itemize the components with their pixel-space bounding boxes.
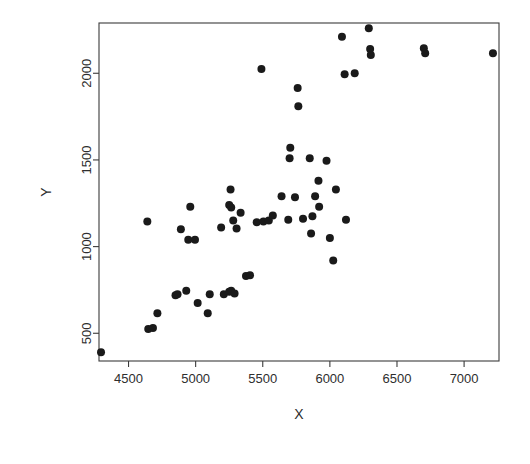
data-point: [149, 324, 157, 332]
data-point: [306, 154, 314, 162]
y-tick-label: 2000: [80, 59, 95, 88]
data-point: [311, 192, 319, 200]
data-point: [227, 204, 235, 212]
data-point: [365, 24, 373, 32]
data-point: [143, 217, 151, 225]
data-point: [314, 177, 322, 185]
data-point: [269, 211, 277, 219]
plot-canvas: 450050005500600065007000 500100015002000…: [0, 0, 530, 464]
data-point: [177, 225, 185, 233]
data-point: [332, 185, 340, 193]
data-point: [284, 216, 292, 224]
y-tick-label: 1000: [80, 232, 95, 261]
x-tick-label: 5500: [248, 371, 277, 386]
data-point: [186, 203, 194, 211]
data-point: [329, 256, 337, 264]
data-point: [227, 185, 235, 193]
data-point: [237, 209, 245, 217]
data-points: [97, 24, 497, 356]
data-point: [315, 203, 323, 211]
data-point: [278, 192, 286, 200]
data-point: [323, 157, 331, 165]
data-point: [253, 218, 261, 226]
y-axis-title: Y: [38, 187, 54, 197]
x-tick-label: 5000: [181, 371, 210, 386]
y-tick-label: 1500: [80, 145, 95, 174]
data-point: [338, 33, 346, 41]
data-point: [294, 102, 302, 110]
data-point: [308, 212, 316, 220]
data-point: [286, 144, 294, 152]
data-point: [246, 271, 254, 279]
data-point: [174, 290, 182, 298]
data-point: [194, 299, 202, 307]
data-point: [97, 348, 105, 356]
y-tick-label: 500: [80, 322, 95, 344]
data-point: [233, 224, 241, 232]
data-point: [191, 236, 199, 244]
data-point: [204, 309, 212, 317]
data-point: [489, 49, 497, 57]
data-point: [286, 154, 294, 162]
data-point: [326, 234, 334, 242]
data-point: [299, 215, 307, 223]
x-tick-label: 4500: [114, 371, 143, 386]
data-point: [421, 49, 429, 57]
y-axis-ticks: 500100015002000: [80, 59, 100, 344]
data-point: [231, 289, 239, 297]
x-axis-title: X: [294, 406, 304, 422]
data-point: [351, 69, 359, 77]
data-point: [206, 290, 214, 298]
data-point: [367, 51, 375, 59]
data-point: [294, 84, 302, 92]
data-point: [307, 230, 315, 238]
data-point: [342, 216, 350, 224]
data-point: [257, 65, 265, 73]
x-tick-label: 7000: [450, 371, 479, 386]
x-tick-label: 6500: [383, 371, 412, 386]
x-tick-label: 6000: [315, 371, 344, 386]
data-point: [341, 70, 349, 78]
x-axis-ticks: 450050005500600065007000: [114, 361, 478, 386]
data-point: [217, 224, 225, 232]
data-point: [291, 193, 299, 201]
scatter-plot-figure: 450050005500600065007000 500100015002000…: [0, 0, 530, 464]
data-point: [153, 309, 161, 317]
data-point: [229, 217, 237, 225]
data-point: [182, 287, 190, 295]
